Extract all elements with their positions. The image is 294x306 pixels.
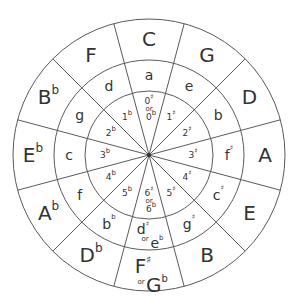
major-key-label: D — [242, 85, 257, 109]
accidental-icon: b — [52, 83, 60, 97]
accidental-icon: ♯ — [192, 213, 195, 221]
sharp-icon: ♯ — [194, 147, 197, 155]
minor-key-label: bb — [102, 213, 116, 232]
minor-key-label: d — [105, 78, 114, 94]
or-label: or — [137, 278, 144, 286]
signature-label: 1♯ — [166, 109, 175, 122]
accidental-icon: b — [52, 199, 60, 213]
major-key-label-letter: F — [85, 43, 97, 67]
major-key-label: Ab — [38, 199, 59, 225]
major-key-label-letter: A — [38, 201, 52, 225]
major-key-label-letter: D — [242, 85, 257, 109]
minor-key-label-letter: e — [185, 78, 194, 94]
spoke-line — [149, 155, 184, 286]
signature-label: 5b — [122, 185, 133, 198]
segment-0: Ca0♯or0b — [142, 27, 157, 122]
segment-11: Fd1b — [85, 43, 132, 122]
minor-key-label: a — [145, 67, 154, 83]
signature-label: 1b — [122, 109, 133, 122]
major-key-label: C — [142, 27, 156, 51]
segment-6: F♯orGbd♯oreb6♯or6b — [135, 185, 168, 297]
minor-key-label-letter: b — [102, 216, 111, 232]
flat-icon: b — [106, 147, 111, 155]
flat-icon: b — [112, 125, 117, 133]
flat-icon: b — [112, 169, 117, 177]
flat-icon: b — [128, 109, 133, 117]
major-key-label: F — [85, 43, 97, 67]
minor-key-label: g — [75, 107, 84, 123]
major-key-label-letter: E — [243, 201, 256, 225]
minor-key-label: g♯ — [183, 213, 195, 232]
minor-key-label-letter: f — [77, 187, 83, 203]
accidental-icon: b — [111, 213, 116, 221]
major-key-label: E — [243, 201, 256, 225]
major-key-letter: F — [135, 254, 147, 278]
minor-key-label: c — [65, 147, 73, 163]
major-key-label-letter: E — [23, 143, 36, 167]
minor-key-letter: e — [150, 235, 159, 251]
sharp-icon: ♯ — [188, 169, 191, 177]
signature-label: 3b — [100, 147, 111, 160]
segment-1: Ge1♯ — [166, 43, 214, 122]
minor-key-alt-label: eb — [150, 234, 164, 251]
or-label: or — [141, 235, 148, 243]
major-key-alt-label: Gb — [146, 273, 168, 298]
minor-key-label-letter: d — [105, 78, 114, 94]
segment-2: Db2♯ — [183, 85, 258, 138]
major-key-label: Bb — [38, 83, 59, 109]
signature-label: 4♯ — [183, 169, 192, 182]
flat-icon: b — [128, 185, 133, 193]
sharp-icon: ♯ — [172, 109, 175, 117]
flat-icon: b — [152, 201, 157, 209]
flat-icon: b — [159, 234, 164, 242]
flat-icon: b — [162, 273, 168, 284]
signature-label: 5♯ — [166, 185, 175, 198]
accidental-icon: b — [95, 241, 103, 255]
major-key-label: A — [258, 143, 272, 167]
minor-key-label: f — [77, 187, 83, 203]
minor-key-label-letter: g — [75, 107, 84, 123]
sharp-icon: ♯ — [146, 254, 151, 265]
minor-key-label: b — [214, 107, 223, 123]
minor-key-label: e — [185, 78, 194, 94]
major-key-label: Db — [79, 241, 102, 267]
major-key-label-letter: B — [38, 85, 52, 109]
signature-label: 3♯ — [188, 147, 197, 160]
sharp-icon: ♯ — [150, 93, 153, 101]
minor-key-label-letter: c — [65, 147, 73, 163]
segment-3: Af♯3♯ — [188, 143, 272, 167]
major-key-label: Eb — [23, 141, 43, 167]
signature-label: 2♯ — [183, 125, 192, 138]
sharp-icon: ♯ — [188, 125, 191, 133]
segment-9: Ebc3b — [23, 141, 111, 167]
sharp-icon: ♯ — [172, 185, 175, 193]
major-key-letter: G — [146, 273, 162, 297]
major-key-label: G — [199, 43, 215, 67]
major-key-label: B — [200, 243, 214, 267]
minor-key-label: f♯ — [225, 144, 233, 163]
accidental-icon: ♯ — [220, 184, 223, 192]
circle-of-fifths-diagram: Ca0♯or0bGe1♯Db2♯Af♯3♯Ec♯4♯Bg♯5♯F♯orGbd♯o… — [0, 0, 294, 306]
major-key-label-letter: B — [200, 243, 214, 267]
minor-key-label-letter: b — [214, 107, 223, 123]
major-key-label-letter: D — [79, 243, 94, 267]
signature-label: 4b — [106, 169, 117, 182]
accidental-icon: b — [36, 141, 44, 155]
minor-key-label: c♯ — [213, 184, 224, 203]
center-hub — [147, 153, 151, 157]
minor-key-label-letter: a — [145, 67, 154, 83]
minor-key-label-letter: g — [183, 216, 192, 232]
minor-key-label-letter: c — [213, 187, 221, 203]
sharp-icon: ♯ — [146, 220, 149, 228]
major-key-label-letter: G — [199, 43, 215, 67]
accidental-icon: ♯ — [230, 144, 233, 152]
signature-label: 2b — [106, 125, 117, 138]
flat-icon: b — [152, 109, 157, 117]
sharp-icon: ♯ — [150, 185, 153, 193]
major-key-label-letter: C — [142, 27, 156, 51]
segment-5: Bg♯5♯ — [166, 185, 213, 267]
major-key-label-letter: A — [258, 143, 272, 167]
